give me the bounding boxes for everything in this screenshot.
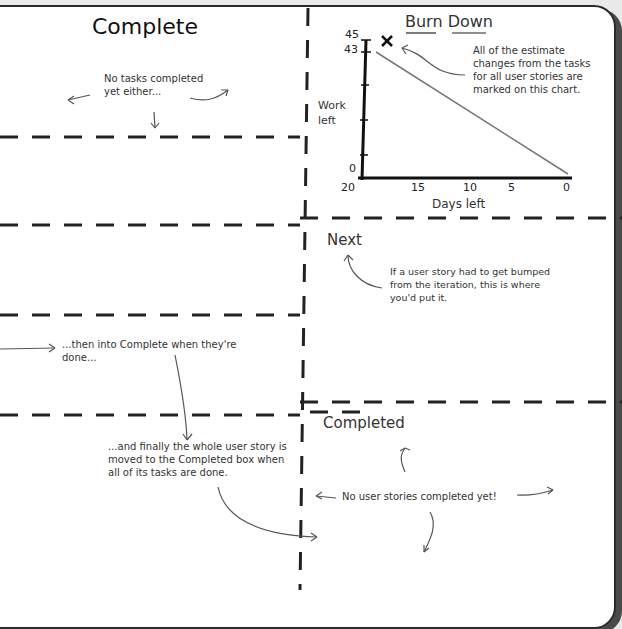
y-axis-label: Work left (318, 98, 348, 128)
next-title: Next (327, 231, 362, 249)
actual-x-marker (382, 36, 392, 46)
completed-flow-note: ...and finally the whole user story is m… (108, 440, 298, 479)
complete-title: Complete (92, 14, 198, 39)
x-tick-5: 5 (508, 181, 515, 194)
vertical-divider (300, 8, 308, 590)
x-tick-0: 0 (563, 181, 570, 194)
x-tick-20: 20 (341, 181, 355, 194)
x-tick-15: 15 (411, 181, 425, 194)
burn-down-note: All of the estimate changes from the tas… (473, 44, 601, 96)
complete-note: No tasks completed yet either... (104, 72, 204, 98)
completed-title: Completed (323, 414, 405, 432)
x-axis-label: Days left (432, 197, 485, 211)
y-tick-45: 45 (345, 28, 359, 41)
y-tick-43: 43 (344, 43, 358, 56)
burn-down-title: Burn Down (405, 12, 493, 31)
x-tick-10: 10 (463, 181, 477, 194)
completed-note: No user stories completed yet! (342, 490, 522, 503)
y-tick-0: 0 (349, 162, 356, 175)
complete-flow-note: ...then into Complete when they're done.… (62, 338, 262, 364)
y-axis (362, 40, 366, 180)
next-note: If a user story had to get bumped from t… (390, 265, 565, 304)
